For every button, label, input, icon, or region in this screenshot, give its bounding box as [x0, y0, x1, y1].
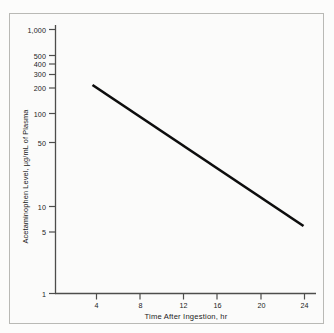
- y-axis-title: Acetaminophen Level, µg/mL of Plasma: [21, 77, 30, 277]
- x-axis-title: Time After Ingestion, hr: [55, 312, 317, 321]
- x-tick-label: 4: [84, 301, 109, 310]
- x-tick-label: 20: [249, 301, 274, 310]
- x-tick-label: 12: [171, 301, 196, 310]
- x-tick-label: 24: [292, 301, 317, 310]
- x-tick-label: 8: [128, 301, 153, 310]
- data-line-acetaminophen: [93, 85, 304, 226]
- y-tick-label: 1,000: [8, 26, 46, 35]
- y-tick-label: 1: [8, 290, 46, 299]
- x-tick-label: 16: [205, 301, 230, 310]
- figure-container: 1,000 500 400 300 200 100 50 10 5 1 4 8 …: [0, 0, 334, 333]
- semilog-plot: [0, 0, 334, 333]
- y-tick-label: 400: [8, 60, 46, 69]
